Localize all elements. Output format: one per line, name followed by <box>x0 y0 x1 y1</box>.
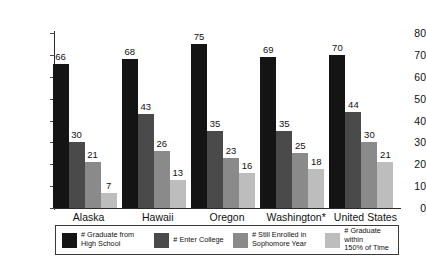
legend-label: # Graduate within 150% of Time <box>344 227 398 253</box>
bar: 30 <box>69 142 85 208</box>
bar: 70 <box>329 55 345 208</box>
x-axis-category-label: United States <box>331 211 400 223</box>
bar: 7 <box>101 193 117 208</box>
legend-item: # Enter College <box>148 226 227 254</box>
bar-value-label: 25 <box>295 141 306 151</box>
bar-value-label: 69 <box>263 45 274 55</box>
legend-swatch <box>325 233 340 248</box>
bar-value-label: 70 <box>332 43 343 53</box>
bar: 35 <box>276 131 292 208</box>
bar-chart: 01020304050607080 6630217684326137535231… <box>0 0 426 266</box>
plot-area: 663021768432613753523166935251870443021 <box>54 33 400 208</box>
bar-value-label: 75 <box>194 32 205 42</box>
bar: 21 <box>85 162 101 208</box>
bar: 68 <box>122 59 138 208</box>
bar: 44 <box>345 112 361 208</box>
bar-value-label: 21 <box>87 150 98 160</box>
bar: 66 <box>53 64 69 208</box>
legend-item: # Graduate within 150% of Time <box>319 226 398 254</box>
chart-legend: # Graduate from High School# Enter Colle… <box>55 225 399 255</box>
bar-value-label: 18 <box>311 157 322 167</box>
bar-group: 6630217 <box>53 33 117 208</box>
bar-value-label: 30 <box>71 130 82 140</box>
bar: 25 <box>292 153 308 208</box>
bar-value-label: 44 <box>348 100 359 110</box>
x-axis-category-label: Washington* <box>262 211 331 223</box>
bar: 35 <box>207 131 223 208</box>
bar: 75 <box>191 44 207 208</box>
legend-swatch <box>154 233 169 248</box>
legend-label: # Graduate from High School <box>81 231 134 248</box>
bar: 16 <box>239 173 255 208</box>
bar-group: 70443021 <box>329 33 393 208</box>
bar-group: 68432613 <box>122 33 186 208</box>
bar-value-label: 23 <box>226 146 237 156</box>
x-axis-category-label: Alaska <box>54 211 123 223</box>
legend-item: # Still Enrolled in Sophomore Year <box>227 226 319 254</box>
bar-value-label: 68 <box>125 47 136 57</box>
bar-value-label: 30 <box>364 130 375 140</box>
bar-value-label: 26 <box>157 139 168 149</box>
bar-value-label: 43 <box>141 102 152 112</box>
bar: 43 <box>138 114 154 208</box>
bar-value-label: 35 <box>279 119 290 129</box>
bar: 23 <box>223 158 239 208</box>
bar-group: 75352316 <box>191 33 255 208</box>
bar: 18 <box>308 169 324 208</box>
bar: 21 <box>377 162 393 208</box>
bar-group: 69352518 <box>260 33 324 208</box>
x-axis-category-label: Hawaii <box>123 211 192 223</box>
bar-value-label: 66 <box>55 52 66 62</box>
bar-value-label: 35 <box>210 119 221 129</box>
legend-swatch <box>233 233 248 248</box>
x-axis-line <box>54 208 401 209</box>
bar-value-label: 13 <box>173 168 184 178</box>
legend-label: # Still Enrolled in Sophomore Year <box>252 231 306 248</box>
legend-swatch <box>62 233 77 248</box>
bar: 30 <box>361 142 377 208</box>
bar-value-label: 21 <box>380 150 391 160</box>
bar: 69 <box>260 57 276 208</box>
legend-label: # Enter College <box>173 236 223 245</box>
legend-item: # Graduate from High School <box>56 226 148 254</box>
bar-value-label: 16 <box>242 161 253 171</box>
y-axis-tick <box>50 208 55 209</box>
x-axis-category-label: Oregon <box>192 211 261 223</box>
bar: 13 <box>170 180 186 208</box>
bar: 26 <box>154 151 170 208</box>
bar-value-label: 7 <box>106 181 111 191</box>
